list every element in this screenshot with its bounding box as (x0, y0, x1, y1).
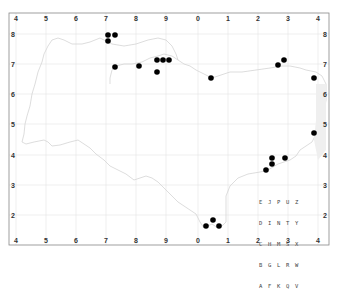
occurrence-point (154, 69, 160, 75)
occurrence-point (311, 75, 317, 81)
legend-row: C H M S X (259, 241, 300, 248)
axis-tick-label: 4 (316, 237, 320, 244)
axis-tick-label: 6 (323, 91, 327, 98)
occurrence-point (136, 63, 142, 69)
axis-tick-label: 0 (196, 15, 200, 22)
axis-tick-label: 6 (74, 15, 78, 22)
axis-tick-label: 8 (134, 237, 138, 244)
occurrence-point (105, 38, 111, 44)
axis-tick-label: 2 (11, 212, 15, 219)
occurrence-point (154, 57, 160, 63)
occurrence-point (263, 167, 269, 173)
axis-tick-label: 3 (286, 15, 290, 22)
occurrence-point (311, 130, 317, 136)
axis-tick-label: 9 (164, 237, 168, 244)
occurrence-point (160, 57, 166, 63)
axis-tick-label: 8 (323, 31, 327, 38)
axis-tick-label: 5 (323, 121, 327, 128)
axis-tick-label: 4 (323, 152, 327, 159)
grid-square-legend: E J P U Z D I N T Y C H M S X B G L R W … (259, 185, 300, 293)
axis-tick-label: 0 (196, 237, 200, 244)
axis-tick-label: 1 (226, 237, 230, 244)
occurrence-point (269, 155, 275, 161)
axis-tick-label: 5 (44, 15, 48, 22)
axis-tick-label: 3 (323, 182, 327, 189)
occurrence-point (208, 75, 214, 81)
axis-tick-label: 1 (226, 15, 230, 22)
occurrence-point (203, 223, 209, 229)
occurrence-point (210, 217, 216, 223)
occurrence-point (112, 32, 118, 38)
axis-tick-label: 2 (256, 15, 260, 22)
axis-tick-label: 5 (44, 237, 48, 244)
occurrence-point (282, 155, 288, 161)
axis-tick-label: 7 (11, 61, 15, 68)
axis-tick-label: 4 (11, 152, 15, 159)
axis-tick-label: 6 (74, 237, 78, 244)
occurrence-point (112, 64, 118, 70)
occurrence-point (216, 223, 222, 229)
legend-row: D I N T Y (259, 220, 300, 227)
axis-tick-label: 7 (323, 61, 327, 68)
axis-tick-label: 4 (14, 237, 18, 244)
legend-row: A F K Q V (259, 283, 300, 290)
occurrence-point (269, 161, 275, 167)
axis-tick-label: 2 (323, 212, 327, 219)
axis-tick-label: 3 (11, 182, 15, 189)
axis-tick-label: 8 (134, 15, 138, 22)
axis-tick-label: 9 (164, 15, 168, 22)
axis-tick-label: 6 (11, 91, 15, 98)
occurrence-point (275, 62, 281, 68)
axis-tick-label: 5 (11, 121, 15, 128)
occurrence-point (166, 57, 172, 63)
legend-row: E J P U Z (259, 199, 300, 206)
axis-tick-label: 7 (104, 237, 108, 244)
axis-tick-label: 8 (11, 31, 15, 38)
axis-tick-label: 4 (14, 15, 18, 22)
axis-tick-label: 4 (316, 15, 320, 22)
axis-tick-label: 7 (104, 15, 108, 22)
legend-row: B G L R W (259, 262, 300, 269)
occurrence-point (105, 32, 111, 38)
occurrence-point (281, 57, 287, 63)
